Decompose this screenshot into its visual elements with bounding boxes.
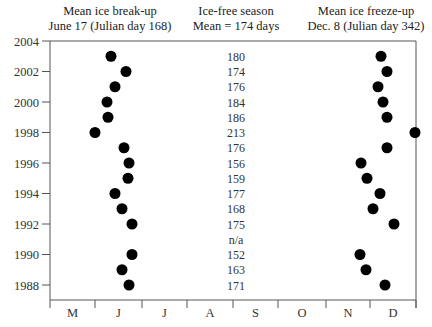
breakup-point: [127, 249, 138, 260]
breakup-point: [127, 219, 138, 230]
breakup-point: [117, 264, 128, 275]
freezeup-point: [375, 188, 386, 199]
x-tick-label: D: [388, 306, 397, 320]
freezeup-point: [410, 127, 421, 138]
y-tick-label: 1996: [14, 157, 39, 171]
season-duration-label: 175: [227, 218, 245, 232]
breakup-point: [119, 142, 130, 153]
breakup-point: [123, 173, 134, 184]
season-duration-label: 163: [227, 263, 245, 277]
freezeup-point: [356, 158, 367, 169]
freezeup-point: [389, 219, 400, 230]
season-duration-label: 177: [227, 187, 245, 201]
x-tick-label: O: [297, 306, 306, 320]
season-duration-label: 174: [227, 65, 245, 79]
y-tick-label: 1988: [14, 279, 39, 293]
freezeup-point: [373, 81, 384, 92]
season-duration-label: 152: [227, 248, 245, 262]
breakup-point: [110, 81, 121, 92]
freezeup-point: [362, 173, 373, 184]
season-duration-label: 159: [227, 172, 245, 186]
y-tick-label: 1998: [14, 126, 39, 140]
freezeup-point: [382, 112, 393, 123]
breakup-point: [110, 188, 121, 199]
season-duration-label: 168: [227, 202, 245, 216]
y-tick-label: 1992: [14, 218, 39, 232]
y-tick-label: 2004: [14, 35, 40, 49]
season-duration-label: 213: [227, 126, 245, 140]
x-axis-labels: MJJASOND: [67, 306, 398, 320]
season-duration-label: 176: [227, 80, 245, 94]
season-duration-label: 176: [227, 141, 245, 155]
breakup-point: [124, 158, 135, 169]
freezeup-point: [378, 97, 389, 108]
freezeup-point: [355, 249, 366, 260]
season-duration-label: 171: [227, 279, 245, 293]
season-duration-label: 186: [227, 111, 245, 125]
freezeup-point: [376, 51, 387, 62]
breakup-point: [117, 203, 128, 214]
freezeup-point: [361, 264, 372, 275]
y-tick-label: 1990: [14, 248, 39, 262]
y-tick-label: 2002: [14, 65, 39, 79]
freezeup-point: [382, 66, 393, 77]
y-tick-label: 2000: [14, 96, 39, 110]
season-duration-label: n/a: [229, 233, 244, 247]
freezeup-series: [355, 51, 421, 291]
x-tick-label: N: [343, 306, 352, 320]
breakup-point: [103, 112, 114, 123]
freezeup-point: [380, 280, 391, 291]
breakup-point: [124, 280, 135, 291]
y-tick-label: 1994: [14, 187, 40, 201]
x-tick-label: S: [252, 306, 259, 320]
x-tick-label: J: [116, 306, 121, 320]
x-tick-label: J: [162, 306, 167, 320]
breakup-point: [102, 97, 113, 108]
ice-chart: 200420022000199819961994199219901988 MJJ…: [0, 0, 432, 327]
breakup-point: [121, 66, 132, 77]
x-tick-label: M: [67, 306, 78, 320]
freezeup-point: [382, 142, 393, 153]
season-duration-label: 180: [227, 50, 245, 64]
season-duration-label: 156: [227, 157, 245, 171]
season-labels: 180174176184186213176156159177168175n/a1…: [227, 50, 245, 293]
breakup-series: [90, 51, 138, 291]
y-axis-labels: 200420022000199819961994199219901988: [14, 35, 40, 293]
breakup-point: [106, 51, 117, 62]
freezeup-point: [368, 203, 379, 214]
x-tick-label: A: [205, 306, 214, 320]
breakup-point: [90, 127, 101, 138]
season-duration-label: 184: [227, 96, 245, 110]
